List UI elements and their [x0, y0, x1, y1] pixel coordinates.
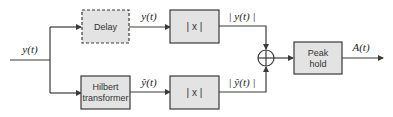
- abs-block-top: | x |: [170, 10, 219, 43]
- peak-hold-block: Peak hold: [294, 42, 342, 74]
- output-signal-label: A(t): [351, 41, 369, 54]
- hilbert-transformer-block: Hilbert transformer: [81, 76, 130, 109]
- hilbert-output-label: ŷ(t): [140, 76, 157, 89]
- delay-label: Delay: [94, 22, 118, 32]
- delay-output-label: y(t): [140, 10, 157, 23]
- hilbert-label-line2: transformer: [82, 93, 128, 103]
- peak-hold-label-line2: hold: [309, 59, 326, 69]
- envelope-detector-diagram: y(t) Delay Hilbert transformer y(t) ŷ(t)…: [0, 0, 393, 117]
- abs-top-output-label: | y(t) |: [229, 10, 256, 23]
- abs-bottom-label: | x |: [187, 87, 203, 98]
- summer-icon: [258, 50, 274, 66]
- abs-top-label: | x |: [187, 21, 203, 32]
- input-signal-label: y(t): [21, 43, 38, 56]
- peak-hold-label-line1: Peak: [308, 48, 329, 58]
- hilbert-label-line1: Hilbert: [92, 82, 119, 92]
- input-wire: [10, 27, 81, 93]
- abs-bottom-output-label: | ŷ(t) |: [229, 76, 256, 89]
- abs-block-bottom: | x |: [170, 76, 219, 109]
- delay-block: Delay: [82, 10, 129, 43]
